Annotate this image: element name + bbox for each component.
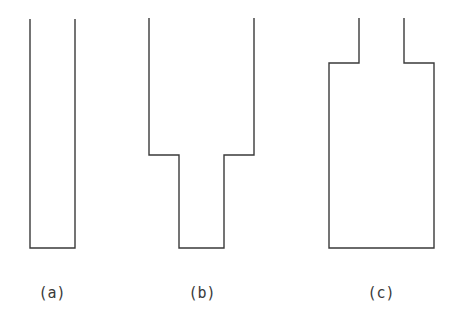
figure-canvas: [0, 0, 453, 322]
container-shape-b: [149, 18, 254, 248]
panel-label-a: (a): [38, 284, 65, 302]
panel-label-c: (c): [367, 284, 394, 302]
panel-label-b: (b): [188, 284, 215, 302]
container-shape-c: [329, 18, 434, 248]
container-shape-a: [30, 19, 75, 248]
